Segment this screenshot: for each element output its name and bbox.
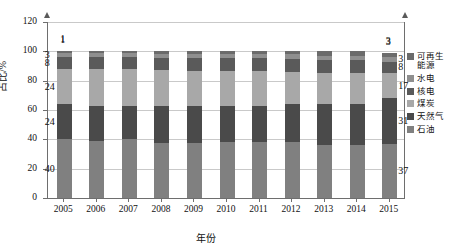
y-tick-label: 0 <box>9 192 37 202</box>
bar-segment-煤炭 <box>252 71 267 106</box>
bar-2006 <box>89 51 104 198</box>
bar-2005 <box>57 51 72 198</box>
y-tick-label: 40 <box>9 133 37 143</box>
bar-2008 <box>154 51 169 198</box>
legend-swatch-icon <box>407 126 414 133</box>
bar-segment-核电 <box>220 58 235 71</box>
bar-segment-天然气 <box>285 104 300 142</box>
bar-segment-石油 <box>220 142 235 198</box>
bar-segment-煤炭 <box>57 69 72 104</box>
bar-segment-核电 <box>317 60 332 73</box>
x-tick-mark <box>226 198 227 202</box>
bar-2014 <box>350 51 365 198</box>
legend-swatch-icon <box>407 100 414 107</box>
y-tick-label: 100 <box>9 45 37 55</box>
bar-segment-核电 <box>285 59 300 72</box>
data-label-核电: 8 <box>398 61 403 72</box>
y-axis-arrow-left <box>44 12 50 18</box>
bar-segment-石油 <box>122 139 137 198</box>
legend-label: 可再生能源 <box>417 52 450 70</box>
x-tick-mark <box>161 198 162 202</box>
x-tick-label: 2015 <box>369 204 409 214</box>
bar-segment-煤炭 <box>382 73 397 98</box>
bar-segment-天然气 <box>252 106 267 142</box>
bar-2012 <box>285 51 300 198</box>
x-tick-mark <box>324 198 325 202</box>
bar-segment-天然气 <box>57 104 72 139</box>
bar-2011 <box>252 51 267 198</box>
bar-segment-煤炭 <box>285 72 300 104</box>
x-tick-mark <box>291 198 292 202</box>
bar-2013 <box>317 51 332 198</box>
bar-segment-核电 <box>350 60 365 73</box>
legend-swatch-icon <box>407 88 414 95</box>
x-tick-mark <box>193 198 194 202</box>
data-label-核电: 8 <box>45 57 50 68</box>
bar-segment-核电 <box>187 58 202 71</box>
y-axis-label: 占比/% <box>0 61 9 92</box>
bar-segment-核电 <box>89 57 104 69</box>
y-tick-label: 120 <box>9 16 37 26</box>
legend-label: 天然气 <box>417 112 444 121</box>
bar-segment-天然气 <box>350 104 365 145</box>
bar-segment-天然气 <box>220 106 235 142</box>
bar-2010 <box>220 51 235 198</box>
bar-segment-煤炭 <box>187 71 202 106</box>
bar-segment-天然气 <box>89 106 104 141</box>
bar-segment-石油 <box>187 143 202 198</box>
gridline <box>48 22 404 23</box>
bar-segment-天然气 <box>382 98 397 143</box>
legend-item-天然气[interactable]: 天然气 <box>407 112 450 121</box>
bar-segment-石油 <box>89 141 104 198</box>
legend-item-水电[interactable]: 水电 <box>407 74 450 83</box>
bar-segment-石油 <box>350 145 365 198</box>
x-tick-mark <box>96 198 97 202</box>
bar-segment-煤炭 <box>317 73 332 104</box>
x-tick-mark <box>128 198 129 202</box>
bar-segment-石油 <box>382 144 397 198</box>
bar-segment-煤炭 <box>220 71 235 106</box>
data-label-石油: 40 <box>45 163 55 174</box>
bar-segment-石油 <box>154 143 169 198</box>
x-tick-mark <box>63 198 64 202</box>
bar-segment-煤炭 <box>154 70 169 107</box>
bar-segment-天然气 <box>122 106 137 140</box>
bar-segment-煤炭 <box>122 69 137 106</box>
y-tick-label: 80 <box>9 75 37 85</box>
bar-segment-石油 <box>252 142 267 198</box>
bar-segment-核电 <box>382 62 397 74</box>
x-axis-label: 年份 <box>196 230 216 245</box>
bar-segment-煤炭 <box>89 69 104 106</box>
legend-item-可再生能源[interactable]: 可再生能源 <box>407 52 450 70</box>
legend-label: 煤炭 <box>417 99 435 108</box>
data-label-石油: 37 <box>398 165 408 176</box>
y-tick-label: 60 <box>9 104 37 114</box>
bar-segment-天然气 <box>317 104 332 145</box>
legend-item-核电[interactable]: 核电 <box>407 87 450 96</box>
bar-segment-天然气 <box>154 106 169 143</box>
bar-total-label: 1 <box>60 34 65 45</box>
bar-segment-核电 <box>252 58 267 71</box>
bar-segment-核电 <box>57 57 72 69</box>
bar-segment-核电 <box>154 58 169 70</box>
bar-segment-石油 <box>57 139 72 198</box>
bar-total-label: 3 <box>386 36 391 47</box>
bar-segment-天然气 <box>187 106 202 143</box>
bar-2015 <box>382 53 397 198</box>
legend-item-石油[interactable]: 石油 <box>407 125 450 134</box>
legend-label: 石油 <box>417 125 435 134</box>
bar-segment-核电 <box>122 57 137 69</box>
legend-item-煤炭[interactable]: 煤炭 <box>407 99 450 108</box>
y-tick-label: 20 <box>9 163 37 173</box>
legend-swatch-icon <box>407 75 414 82</box>
data-label-天然气: 24 <box>45 116 55 127</box>
legend-label: 核电 <box>417 87 435 96</box>
plot-area <box>47 22 405 198</box>
legend-swatch-icon <box>407 113 414 120</box>
y-axis-arrow-right <box>402 12 408 18</box>
bar-segment-石油 <box>285 142 300 198</box>
bar-2009 <box>187 51 202 198</box>
x-tick-mark <box>356 198 357 202</box>
bar-segment-煤炭 <box>350 73 365 104</box>
legend: 可再生能源水电核电煤炭天然气石油 <box>407 52 450 137</box>
